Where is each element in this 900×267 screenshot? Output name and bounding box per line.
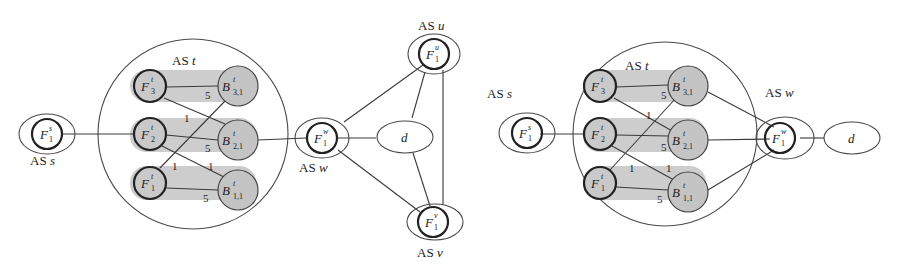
router-f1-u-label: F [425,47,435,62]
as-v-label: AS v [417,245,443,260]
router-f2-t-right-sub: 2 [601,135,605,144]
router-b21-t-sub: 2,1 [233,142,243,151]
weight-f2-b21-right: 5 [661,141,667,153]
network-diagram: F s 1 AS s AS t F t 3 F t 2 F t 1 B t 3,… [0,0,900,267]
router-b21-t-right-label: B [672,133,680,148]
router-f1-v-sup: v [434,211,438,220]
router-f1-s-sup: s [49,124,52,133]
router-f3-t [134,70,166,102]
edge-b21-w-right [708,139,770,140]
router-f2-t-right [584,118,616,150]
weight-f3-b31: 5 [205,89,211,101]
router-f1-s-right [512,118,542,148]
router-f2-t-sub: 2 [151,135,155,144]
router-f2-t-right-label: F [590,127,600,142]
router-f1-w [307,123,337,153]
as-u-label: AS u [418,18,445,33]
router-f1-w-sup: w [323,127,329,136]
as-w-label-right: AS w [765,85,794,100]
router-f1-s-right-sup: s [528,123,531,132]
as-s-label: AS s [30,153,55,168]
router-b31-t-label: B [222,79,230,94]
weight-f3-b21-right: 1 [646,109,652,121]
router-f1-u-sub: 1 [435,55,439,64]
router-f1-w-label: F [313,131,323,146]
edge-b21-w [258,138,306,140]
router-f1-t-label: F [140,176,150,191]
router-f1-w-right-sup: w [781,127,787,136]
router-b11-t-sub: 1,1 [233,192,243,201]
router-f1-t-right [584,167,616,199]
router-f1-s-sub: 1 [49,135,53,144]
weight-f1-b31-right: 1 [629,162,635,174]
router-f2-t [134,118,166,150]
weight-f2-b11-right: 1 [666,162,672,174]
edge-b11-w-right [708,150,774,190]
router-f1-t [134,167,166,199]
right-diagram: F s 1 AS s AS t F t 3 F t 2 F t 1 B t 3,… [487,42,880,226]
router-f3-t-sub: 3 [151,87,155,96]
destination-d-right-label: d [848,131,855,146]
router-b31-t-sub: 3,1 [233,88,243,97]
destination-d-label: d [401,130,408,145]
router-f1-u [419,39,449,69]
edge-w-v [338,150,420,212]
as-w-label: AS w [299,160,328,175]
router-b31-t-right-sub: 3,1 [683,88,693,97]
as-t-label-right: AS t [625,58,649,73]
router-f1-w-right-label: F [771,131,781,146]
router-b11-t-label: B [222,183,230,198]
edge-u-d [412,72,425,118]
router-f1-s-label: F [39,127,49,142]
router-f3-t-right-label: F [590,79,600,94]
router-f1-w-right [765,123,795,153]
router-f1-s-right-sub: 1 [528,134,532,143]
weight-f1-b11: 5 [203,192,209,204]
router-f1-w-right-sub: 1 [781,139,785,148]
weight-f1-b31: 1 [172,160,178,172]
router-f3-t-right [584,70,616,102]
router-b21-t-label: B [222,133,230,148]
router-f1-t-sub: 1 [151,184,155,193]
router-f1-t-right-sub: 1 [601,184,605,193]
as-s-label-right: AS s [487,86,512,101]
left-diagram: F s 1 AS s AS t F t 3 F t 2 F t 1 B t 3,… [19,18,463,260]
weight-f2-b11: 1 [208,160,214,172]
router-b11-t-right-label: B [672,185,680,200]
router-f3-t-right-sub: 3 [601,87,605,96]
router-f1-v-sub: 1 [434,223,438,232]
weight-f1-b11-right: 5 [657,193,663,205]
router-b21-t-right-sub: 2,1 [683,142,693,151]
router-f1-t-right-label: F [590,176,600,191]
router-f1-v-label: F [424,215,434,230]
weight-f2-b21: 5 [205,142,211,154]
weight-f3-b21: 1 [184,112,190,124]
router-b11-t-right-sub: 1,1 [683,194,693,203]
edge-w-u [344,65,423,122]
as-v-boundary [407,204,463,240]
router-f2-t-label: F [140,127,150,142]
router-f1-w-sub: 1 [323,139,327,148]
router-f3-t-label: F [140,79,150,94]
router-f1-v [418,207,448,237]
router-b31-t-right-label: B [672,79,680,94]
router-f1-s-right-label: F [518,126,528,141]
edge-d-v [413,153,430,206]
as-t-label: AS t [172,53,196,68]
weight-f3-b31-right: 5 [661,89,667,101]
router-f1-u-sup: u [435,43,439,52]
